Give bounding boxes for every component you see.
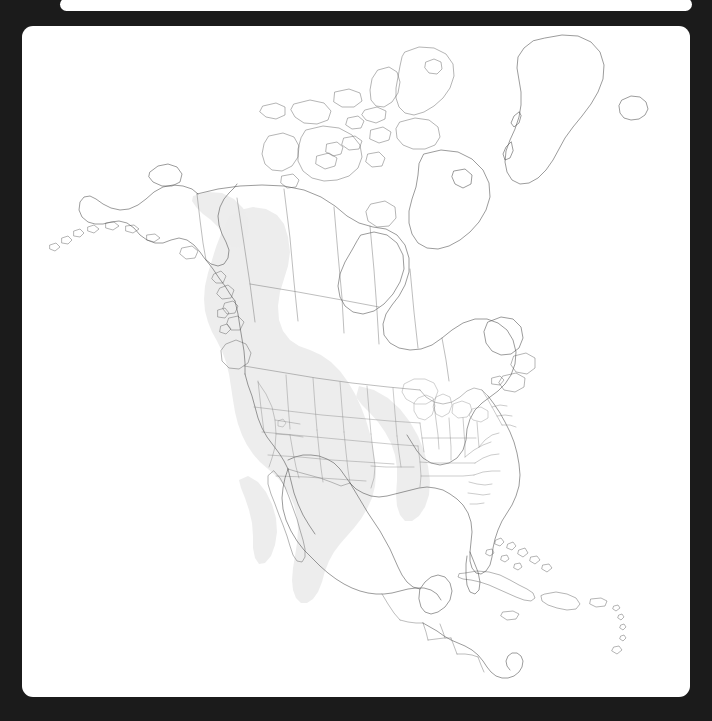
range-overlay-shape xyxy=(204,207,376,603)
range-overlay-lobe-baja xyxy=(239,476,277,564)
north-america-range-map[interactable] xyxy=(22,26,690,697)
florida-detail xyxy=(466,552,480,594)
top-panel-sliver[interactable] xyxy=(60,0,692,11)
range-overlay-group xyxy=(192,192,430,603)
arctic-archipelago xyxy=(260,47,490,249)
iceland-outline xyxy=(619,96,648,120)
greenland-outline xyxy=(503,35,604,184)
map-card[interactable] xyxy=(22,26,690,697)
map-svg xyxy=(22,26,690,697)
central-america-outline xyxy=(423,623,523,678)
caribbean-islands xyxy=(458,538,626,654)
